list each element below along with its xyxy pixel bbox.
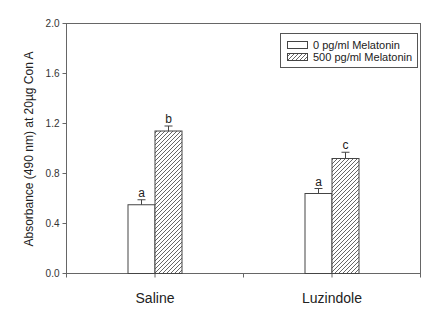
bar-luzindole-1 bbox=[332, 159, 359, 274]
y-tick-label: 1.6 bbox=[46, 68, 60, 79]
bar-luzindole-0 bbox=[305, 194, 332, 274]
bars: abac bbox=[128, 112, 359, 274]
y-tick-label: 0.4 bbox=[46, 218, 60, 229]
x-category-label: Luzindole bbox=[302, 290, 362, 306]
legend-label-0: 0 pg/ml Melatonin bbox=[313, 39, 400, 51]
bar-saline-0 bbox=[128, 205, 155, 274]
y-tick-label: 1.2 bbox=[46, 118, 60, 129]
y-axis: 0.00.40.81.21.62.0 bbox=[46, 18, 67, 279]
significance-label: c bbox=[343, 138, 349, 152]
y-axis-title: Absorbance (490 nm) at 20µg Con A bbox=[22, 51, 36, 246]
legend-swatch-white bbox=[288, 42, 308, 49]
x-category-label: Saline bbox=[136, 290, 175, 306]
legend: 0 pg/ml Melatonin 500 pg/ml Melatonin bbox=[281, 34, 418, 68]
significance-label: b bbox=[165, 112, 172, 126]
legend-label-1: 500 pg/ml Melatonin bbox=[313, 51, 412, 63]
y-tick-label: 0.8 bbox=[46, 168, 60, 179]
y-tick-label: 0.0 bbox=[46, 268, 60, 279]
significance-label: a bbox=[138, 186, 145, 200]
x-axis: SalineLuzindole bbox=[67, 274, 421, 307]
bar-saline-1 bbox=[155, 131, 182, 274]
bar-chart: 0.00.40.81.21.62.0 SalineLuzindole abac … bbox=[0, 0, 444, 313]
legend-swatch-hatched bbox=[288, 54, 308, 61]
significance-label: a bbox=[315, 175, 322, 189]
y-tick-label: 2.0 bbox=[46, 18, 60, 29]
